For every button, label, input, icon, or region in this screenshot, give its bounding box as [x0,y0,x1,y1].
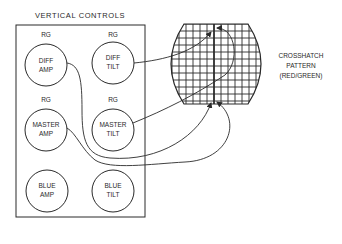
blue-tilt-label-2: TILT [107,191,120,198]
panel-title: VERTICAL CONTROLS [35,11,125,20]
screen-label-1: CROSSHATCH [278,52,323,59]
diff-amp-label-1: DIFF [39,57,53,64]
master-amp-badge: RG [41,96,51,103]
blue-amp-label-1: BLUE [39,182,57,189]
diff-tilt-knob[interactable]: DIFF TILT [92,42,134,84]
master-amp-knob[interactable]: MASTER AMP [25,109,67,151]
screen-label-2: PATTERN [286,62,316,69]
blue-amp-label-2: AMP [40,191,54,198]
master-tilt-label-1: MASTER [99,121,126,128]
vertical-controls-diagram: VERTICAL CONTROLS RG DIFF AMP RG DIFF TI… [0,0,342,244]
crosshatch-screen [158,24,274,104]
master-tilt-knob[interactable]: MASTER TILT [92,109,134,151]
master-amp-label-1: MASTER [32,121,59,128]
diff-amp-circle[interactable] [25,44,67,86]
screen-label-3: (RED/GREEN) [280,72,323,80]
diff-tilt-badge: RG [108,31,118,38]
diff-amp-knob[interactable]: DIFF AMP [25,44,67,86]
master-tilt-label-2: TILT [107,130,120,137]
blue-tilt-label-1: BLUE [105,182,123,189]
diff-tilt-label-1: DIFF [106,54,120,61]
screen-outline [171,24,261,104]
diff-amp-badge: RG [41,31,51,38]
master-amp-label-2: AMP [39,130,53,137]
master-tilt-badge: RG [108,96,118,103]
blue-tilt-knob[interactable]: BLUE TILT [92,170,134,212]
diff-tilt-label-2: TILT [107,63,120,70]
blue-amp-knob[interactable]: BLUE AMP [26,170,68,212]
diff-amp-label-2: AMP [39,66,53,73]
master-amp-connector [67,102,230,166]
